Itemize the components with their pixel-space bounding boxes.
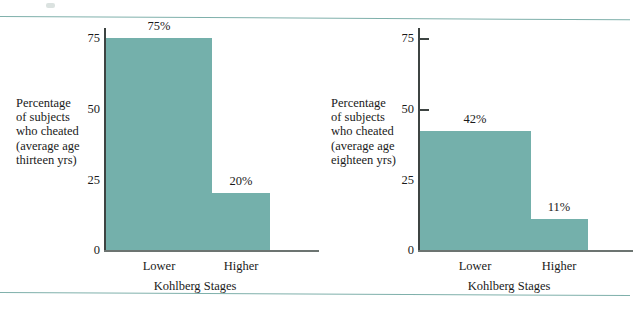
y-axis-title-line: thirteen yrs)	[16, 153, 108, 167]
bar-lower	[106, 38, 212, 250]
y-axis-title-line: who cheated	[331, 124, 423, 138]
y-tick-label: 50	[74, 103, 100, 116]
bar-value-label: 75%	[129, 20, 189, 33]
x-axis-line	[104, 250, 319, 252]
category-label-lower: Lower	[129, 260, 189, 273]
category-label-higher: Higher	[529, 260, 589, 273]
bar-value-label: 42%	[445, 113, 505, 126]
x-axis-line	[418, 250, 633, 252]
x-axis-title: Kohlberg Stages	[434, 280, 584, 293]
bar-higher	[531, 219, 588, 250]
y-tick-mark	[420, 38, 429, 40]
y-axis-title-line: who cheated	[16, 124, 108, 138]
y-tick-mark	[420, 109, 429, 111]
y-axis-title-line: (average age	[16, 139, 108, 153]
y-axis-title-line: eighteen yrs)	[331, 153, 423, 167]
y-tick-label: 25	[74, 174, 100, 187]
y-tick-label: 75	[74, 32, 100, 45]
category-label-lower: Lower	[445, 260, 505, 273]
y-tick-label: 0	[388, 244, 414, 257]
y-tick-label: 50	[388, 103, 414, 116]
y-tick-label: 25	[388, 174, 414, 187]
bar-value-label: 11%	[529, 201, 589, 214]
chart-age-thirteen: Percentage of subjects who cheated (aver…	[0, 0, 315, 312]
y-tick-label: 75	[388, 32, 414, 45]
chart-age-eighteen: Percentage of subjects who cheated (aver…	[315, 0, 630, 312]
x-axis-title: Kohlberg Stages	[120, 280, 270, 293]
category-label-higher: Higher	[211, 260, 271, 273]
y-axis-title-line: (average age	[331, 139, 423, 153]
bar-higher	[212, 193, 270, 250]
bar-lower	[420, 131, 531, 250]
y-tick-label: 0	[74, 244, 100, 257]
bar-value-label: 20%	[211, 175, 271, 188]
